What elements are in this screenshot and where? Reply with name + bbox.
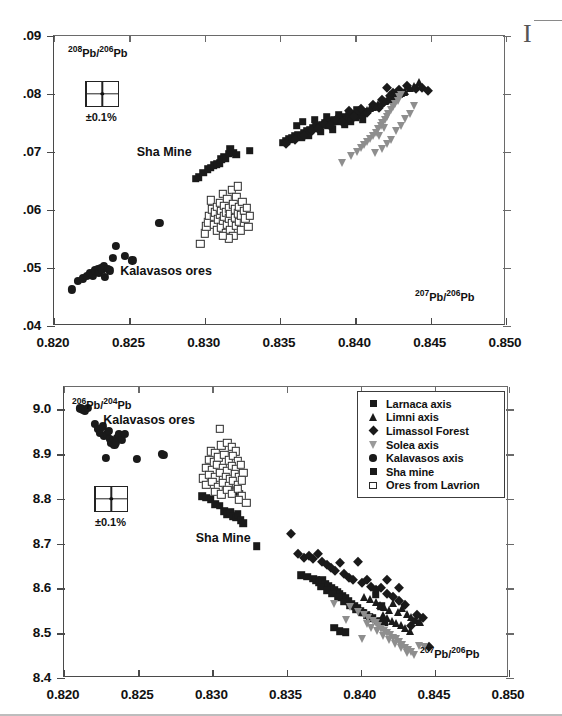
x-tick-top: [138, 387, 139, 393]
x-tick-label: 0.835: [269, 687, 302, 702]
y-tick-right: [503, 268, 511, 269]
data-point: [311, 116, 319, 124]
error-bar-label: ±0.1%: [86, 111, 117, 123]
data-point: [415, 618, 423, 626]
x-tick-label: 0.845: [413, 335, 446, 350]
data-point: [382, 575, 392, 585]
legend-item-label: Limni axis: [386, 411, 439, 423]
y-tick: [47, 210, 55, 211]
y-tick-label: 8.5: [0, 625, 51, 640]
x-tick: [287, 670, 288, 677]
y-axis-title-bottom: 206Pb/204Pb: [72, 396, 132, 411]
y-tick: [57, 633, 65, 634]
legend-item-solea-axis[interactable]: Solea axis: [365, 438, 496, 452]
data-point: [104, 427, 112, 435]
chart-panel-top: 0.8200.8250.8300.8350.8400.8450.850.04.0…: [0, 0, 562, 360]
data-point: [330, 600, 338, 608]
data-point: [121, 429, 129, 437]
y-tick-right: [506, 544, 514, 545]
y-tick-right: [503, 152, 511, 153]
data-point: [415, 78, 423, 86]
y-tick-label: 9.0: [0, 401, 51, 416]
filled-triangle-icon-glyph: [369, 413, 377, 421]
data-point: [406, 110, 414, 118]
scan-rule-line: [534, 20, 562, 21]
y-tick-right: [503, 210, 511, 211]
data-point: [342, 616, 350, 624]
data-point: [397, 122, 405, 130]
x-tick-label: 0.820: [37, 335, 70, 350]
data-point: [106, 266, 114, 274]
data-point: [338, 159, 346, 167]
x-tick: [138, 670, 139, 677]
x-tick-top: [509, 387, 510, 393]
y-tick-label: .09: [0, 28, 41, 43]
gray-triangle-down-icon: [365, 441, 381, 449]
x-tick-label: 0.840: [343, 687, 376, 702]
data-point: [375, 132, 383, 140]
legend-item-sha-mine[interactable]: Sha mine: [365, 465, 496, 479]
filled-square-icon-glyph: [370, 468, 377, 475]
y-tick-right: [503, 326, 511, 327]
y-tick-label: 8.6: [0, 580, 51, 595]
y-tick: [57, 588, 65, 589]
y-tick-label: 8.4: [0, 670, 51, 685]
x-tick-top: [212, 387, 213, 393]
legend-item-label: Limassol Forest: [386, 425, 469, 437]
y-axis-title-top: 208Pb/206Pb: [68, 44, 128, 59]
x-tick-label: 0.820: [47, 687, 80, 702]
data-point: [235, 496, 243, 504]
x-tick: [431, 318, 432, 325]
legend-item-label: Ores from Lavrion: [386, 479, 480, 491]
plot-annotation: Sha Mine: [137, 145, 192, 159]
data-point: [352, 556, 362, 566]
y-tick-right: [506, 633, 514, 634]
y-tick: [57, 678, 65, 679]
open-square-icon: [365, 482, 381, 490]
plot-area-top: [54, 36, 504, 324]
plot-annotation: Sha Mine: [196, 531, 251, 545]
data-point: [246, 147, 254, 155]
x-tick-top: [355, 36, 356, 42]
y-tick-right: [506, 499, 514, 500]
legend: Larnaca axisLimni axisLimassol ForestSol…: [357, 391, 505, 498]
x-tick-top: [205, 36, 206, 42]
filled-triangle-icon: [365, 413, 381, 421]
x-tick: [435, 670, 436, 677]
legend-item-ores-from-lavrion[interactable]: Ores from Lavrion: [365, 479, 496, 493]
x-tick: [506, 318, 507, 325]
x-tick-label: 0.850: [489, 335, 522, 350]
data-point: [242, 498, 250, 506]
data-point: [109, 253, 117, 261]
x-tick-label: 0.830: [187, 335, 220, 350]
plot-annotation: Kalavasos ores: [120, 264, 212, 278]
legend-item-limni-axis[interactable]: Limni axis: [365, 411, 496, 425]
data-point: [394, 583, 404, 593]
legend-item-label: Kalavasos axis: [386, 452, 464, 464]
filled-circle-icon-glyph: [369, 454, 377, 462]
x-tick-top: [431, 36, 432, 42]
y-tick-label: .06: [0, 202, 41, 217]
legend-item-label: Solea axis: [386, 439, 439, 451]
legend-item-larnaca-axis[interactable]: Larnaca axis: [365, 397, 496, 411]
error-bar-label: ±0.1%: [95, 516, 126, 528]
y-tick-right: [506, 678, 514, 679]
legend-item-limassol-forest[interactable]: Limassol Forest: [365, 424, 496, 438]
data-point: [253, 542, 261, 550]
data-point: [410, 102, 418, 110]
data-point: [219, 232, 227, 240]
x-tick: [64, 670, 65, 677]
legend-item-kalavasos-axis[interactable]: Kalavasos axis: [365, 451, 496, 465]
data-point: [246, 212, 254, 220]
x-tick-label: 0.850: [492, 687, 525, 702]
data-point: [410, 651, 418, 659]
x-tick: [205, 318, 206, 325]
y-tick: [47, 94, 55, 95]
x-tick: [355, 318, 356, 325]
y-tick-label: 8.9: [0, 446, 51, 461]
filled-square-icon-glyph: [370, 400, 377, 407]
y-tick-label: .04: [0, 318, 41, 333]
x-tick: [54, 318, 55, 325]
x-tick-top: [280, 36, 281, 42]
data-point: [155, 219, 163, 227]
